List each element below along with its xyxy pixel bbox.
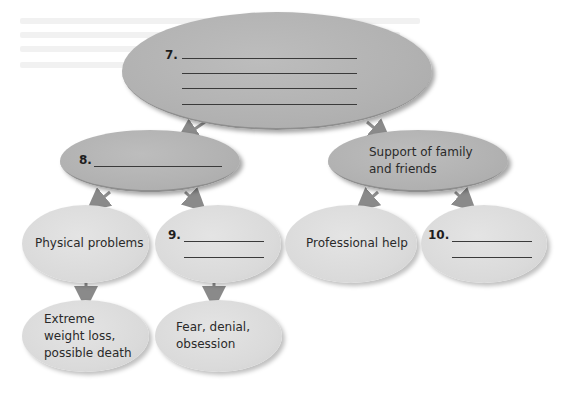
node-8-blank[interactable] (94, 166, 222, 167)
arrow-support-to-professional (362, 192, 378, 206)
node-7-number: 7. (165, 48, 178, 62)
node-9 (155, 205, 281, 283)
arrow-8-to-9 (185, 192, 200, 206)
node-physical-label: Physical problems (35, 235, 144, 252)
node-7-blank-3[interactable] (182, 88, 357, 89)
node-fear-label: Fear, denial, obsession (176, 319, 250, 353)
node-10 (421, 205, 547, 283)
arrow-support-to-10 (455, 192, 470, 206)
node-10-blank-1[interactable] (452, 241, 532, 242)
node-7-blank-4[interactable] (182, 104, 357, 105)
node-extreme-label: Extreme weight loss, possible death (44, 311, 132, 362)
node-professional-label: Professional help (306, 235, 408, 252)
node-10-blank-2[interactable] (452, 257, 532, 258)
node-9-blank-2[interactable] (184, 257, 264, 258)
arrow-8-to-physical (93, 192, 110, 206)
node-9-blank-1[interactable] (184, 241, 264, 242)
node-7-blank-2[interactable] (182, 73, 357, 74)
node-10-number: 10. (428, 228, 449, 242)
node-support-label: Support of family and friends (369, 144, 473, 178)
node-7-blank-1[interactable] (182, 58, 357, 59)
node-8-number: 8. (79, 153, 92, 167)
node-9-number: 9. (168, 228, 181, 242)
node-7-root (122, 12, 432, 130)
